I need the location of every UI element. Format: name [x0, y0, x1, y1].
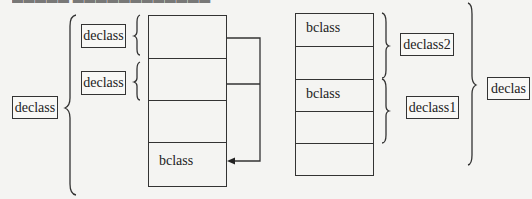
- label-text: declass1: [409, 101, 456, 115]
- label-text: declass: [83, 76, 123, 90]
- left-inner-label-2: declass: [81, 71, 126, 95]
- right-memory-table: bclass bclass: [295, 13, 374, 176]
- table-row: [296, 143, 373, 176]
- connector-line-top: [227, 38, 260, 161]
- right-outer-label: declas: [487, 77, 530, 100]
- label-text: declass: [15, 101, 55, 115]
- label-text: declass2: [403, 38, 450, 52]
- left-memory-table: bclass: [148, 15, 227, 187]
- right-inner-brace-2: [382, 79, 389, 143]
- table-row: [296, 46, 373, 79]
- table-row: bclass: [296, 14, 373, 47]
- cell-text: bclass: [306, 86, 340, 102]
- left-inner-brace-2: [134, 62, 140, 100]
- left-inner-label-1: declass: [81, 24, 126, 48]
- table-row: [149, 58, 226, 101]
- label-text: declas: [491, 82, 526, 96]
- left-outer-brace: [65, 15, 76, 195]
- right-inner-brace-1: [382, 13, 389, 78]
- table-row: bclass: [149, 142, 226, 186]
- cell-text: bclass: [306, 20, 340, 36]
- left-outer-label: declass: [12, 96, 58, 119]
- table-row: bclass: [296, 79, 373, 112]
- left-inner-brace-1: [134, 15, 140, 55]
- cell-text: bclass: [159, 153, 193, 169]
- label-text: declass: [83, 29, 123, 43]
- table-row: [149, 16, 226, 59]
- right-outer-brace: [468, 3, 476, 165]
- table-row: [296, 111, 373, 144]
- right-inner-label-declass2: declass2: [400, 33, 454, 56]
- arrowhead-icon: [227, 158, 235, 165]
- table-row: [149, 100, 226, 143]
- right-inner-label-declass1: declass1: [406, 96, 459, 119]
